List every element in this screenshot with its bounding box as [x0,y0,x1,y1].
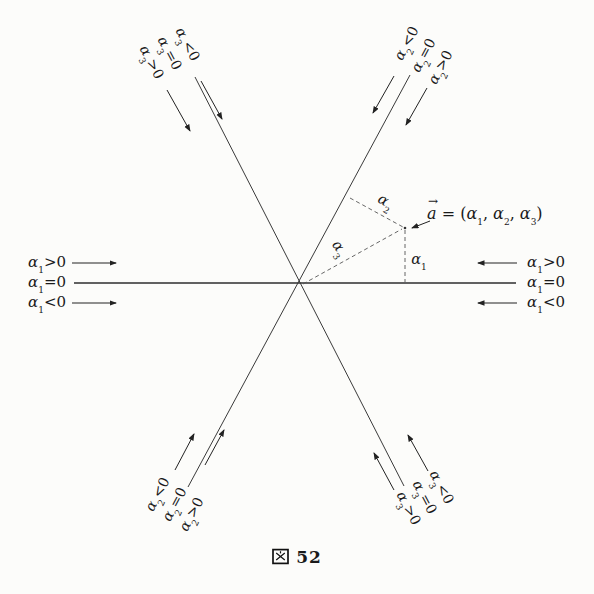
figure-number: 52 [296,547,322,567]
zu-kanji-icon [272,548,289,565]
label-alpha1-eq0-left: α1=0 [28,274,66,291]
vector-tip-point [404,227,407,230]
label-alpha1-gt0-left: α1>0 [28,254,66,271]
subscript: 3 [531,217,537,227]
greek-sym: α [493,204,504,223]
separator: , [510,204,520,223]
figure-caption: 52 [0,547,594,567]
greek-sym: α [466,204,477,223]
relation: =0 [543,273,565,291]
direction-arrows-top-right [373,76,427,125]
greek-sym: α [28,253,38,271]
direction-arrow [167,90,190,131]
projection-alpha3-dashed [303,229,402,284]
relation: <0 [44,293,66,311]
direction-arrow [373,76,394,113]
vector-arrow-mark: → [428,194,438,208]
alpha3-zero-line [195,77,404,486]
separator: , [483,204,493,223]
greek-sym: α [28,273,38,291]
relation: =0 [44,273,66,291]
direction-arrows-bottom-left [175,430,224,470]
label-alpha1-lt0-right: α1<0 [527,294,565,311]
relation: >0 [543,253,565,271]
greek-sym: α [527,293,537,311]
greek-sym: α [28,293,38,311]
subscript: 1 [38,305,44,315]
label-alpha1-lt0-left: α1<0 [28,294,66,311]
subscript: 2 [504,217,510,227]
relation: <0 [543,293,565,311]
direction-arrow [201,81,222,119]
direction-arrow [374,453,394,490]
equals-open-paren: = ( [437,204,467,223]
subscript: 1 [421,262,427,272]
greek-sym: α [527,273,537,291]
vector-a-with-arrow: →a [427,204,437,223]
close-paren: ) [536,204,542,223]
greek-sym: α [411,251,421,267]
direction-arrows-top-left [167,81,222,131]
label-component-alpha1: α1 [411,251,427,267]
label-alpha1-gt0-right: α1>0 [527,254,565,271]
vector-tip-label: →a = (α1, α2, α3) [427,204,543,223]
direction-arrow [205,430,224,465]
direction-arrow [406,88,427,125]
diagram-lines-layer [0,0,594,594]
subscript: 1 [477,217,483,227]
direction-arrow [408,435,428,471]
figure-52-diagram: α1>0 α1=0 α1<0 α1>0 α1=0 α1<0 α3>0 α3=0 … [0,0,594,594]
greek-sym: α [520,204,531,223]
direction-arrow [175,434,194,470]
greek-sym: α [527,253,537,271]
relation: >0 [44,253,66,271]
subscript: 1 [537,305,543,315]
label-alpha1-eq0-right: α1=0 [527,274,565,291]
